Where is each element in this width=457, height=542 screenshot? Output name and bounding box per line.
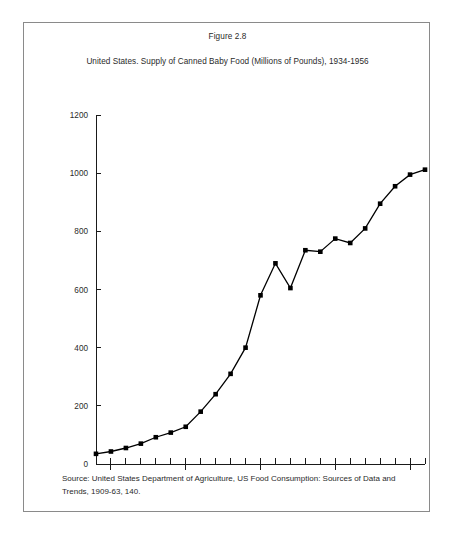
- data-point-marker: [333, 236, 338, 241]
- data-point-marker: [213, 392, 218, 397]
- data-point-marker: [139, 441, 144, 446]
- data-point-marker: [109, 449, 114, 454]
- figure-caption: Figure 2.8: [24, 32, 431, 41]
- data-point-marker: [348, 241, 353, 246]
- y-tick-label: 1200: [70, 111, 89, 120]
- y-tick-label: 600: [74, 286, 88, 295]
- y-tick-label: 800: [74, 227, 88, 236]
- data-point-marker: [94, 452, 99, 457]
- x-axis: 19351940194519501955: [96, 458, 425, 471]
- data-series: [94, 167, 428, 456]
- y-tick-label: 1000: [70, 169, 89, 178]
- series-line: [96, 170, 425, 454]
- data-point-marker: [393, 184, 398, 189]
- data-point-marker: [378, 201, 383, 206]
- data-point-marker: [363, 226, 368, 231]
- data-point-marker: [154, 435, 159, 440]
- y-axis: 020040060080010001200: [70, 111, 101, 469]
- data-point-marker: [318, 249, 323, 254]
- data-point-marker: [423, 167, 428, 172]
- data-point-marker: [408, 172, 413, 177]
- data-point-marker: [273, 261, 278, 266]
- data-point-marker: [303, 248, 308, 253]
- y-tick-label: 0: [83, 460, 88, 469]
- figure-subtitle: United States. Supply of Canned Baby Foo…: [24, 57, 431, 66]
- chart-plot-area: 020040060080010001200 193519401945195019…: [24, 81, 431, 471]
- data-point-marker: [228, 372, 233, 377]
- source-note: Source: United States Department of Agri…: [62, 473, 402, 498]
- data-point-marker: [168, 430, 173, 435]
- data-point-marker: [258, 293, 263, 298]
- y-tick-label: 400: [74, 344, 88, 353]
- figure-page-frame: Figure 2.8 United States. Supply of Cann…: [23, 22, 430, 512]
- y-tick-label: 200: [74, 402, 88, 411]
- data-point-marker: [198, 409, 203, 414]
- page-canvas: Figure 2.8 United States. Supply of Cann…: [0, 0, 457, 542]
- data-point-marker: [288, 286, 293, 291]
- data-point-marker: [243, 345, 248, 350]
- line-chart: 020040060080010001200 193519401945195019…: [24, 81, 431, 471]
- data-point-marker: [124, 446, 129, 451]
- data-point-marker: [183, 424, 188, 429]
